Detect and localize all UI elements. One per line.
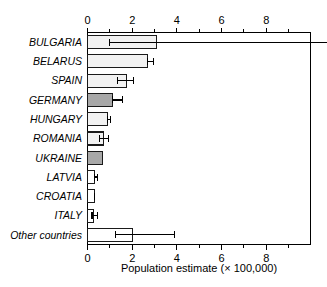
category-labels-layer: BULGARIABELARUSSPAINGERMANYHUNGARYROMANI… [10,36,83,241]
bars-layer [88,36,157,242]
error-bar-belarus [148,58,154,65]
population-bar-chart: 02468 02468 BULGARIABELARUSSPAINGERMANYH… [0,0,327,287]
category-label-italy: ITALY [55,209,83,221]
bar-latvia [88,171,95,184]
bar-hungary [88,113,108,126]
top-axis-ticks [88,28,289,33]
error-bar-croatia [94,193,95,200]
top-tick-label-2: 2 [129,14,135,26]
error-bar-latvia [95,174,98,181]
top-tick-label-6: 6 [219,14,225,26]
category-label-latvia: LATVIA [47,171,82,183]
bottom-tick-label-0: 0 [84,252,90,264]
error-bar-hungary [107,116,110,123]
category-label-other-countries: Other countries [10,229,83,241]
category-label-romania: ROMANIA [33,132,82,144]
category-label-spain: SPAIN [51,74,82,86]
bar-belarus [88,55,148,68]
category-label-bulgaria: BULGARIA [29,36,82,48]
category-label-hungary: HUNGARY [30,113,83,125]
x-axis-title: Population estimate (× 100,000) [121,262,277,274]
error-bars-layer [92,39,327,239]
category-label-belarus: BELARUS [33,55,82,67]
bar-germany [88,93,113,106]
chart-canvas: 02468 02468 BULGARIABELARUSSPAINGERMANYH… [0,0,327,287]
bottom-axis-ticks [88,245,289,250]
bar-ukraine [88,151,103,164]
top-axis-tick-labels: 02468 [84,14,269,26]
error-bar-germany [112,96,122,103]
top-tick-label-0: 0 [84,14,90,26]
category-label-germany: GERMANY [29,94,83,106]
bar-croatia [88,190,95,203]
category-label-croatia: CROATIA [36,190,82,202]
category-label-ukraine: UKRAINE [35,152,83,164]
top-tick-label-4: 4 [174,14,180,26]
top-tick-label-8: 8 [263,14,269,26]
